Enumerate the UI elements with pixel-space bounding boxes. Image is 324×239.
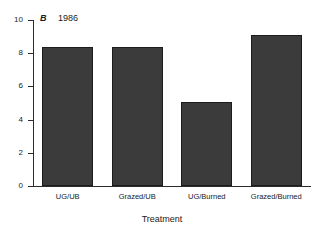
x-tick-label: UG/Burned xyxy=(172,192,242,202)
y-tick-mark xyxy=(28,53,33,54)
y-tick-mark xyxy=(28,186,33,187)
bar-chart-figure: B 1986 0246810 UG/UBGrazed/UBUG/BurnedGr… xyxy=(0,0,324,239)
y-tick-mark xyxy=(28,20,33,21)
y-tick-label: 10 xyxy=(14,14,23,25)
y-tick-mark xyxy=(28,153,33,154)
y-tick-label: 6 xyxy=(19,80,23,91)
y-tick-label: 0 xyxy=(19,180,23,191)
bar xyxy=(181,102,232,186)
y-tick-mark xyxy=(28,86,33,87)
y-tick-mark xyxy=(28,120,33,121)
x-axis-title: Treatment xyxy=(0,214,324,224)
bar xyxy=(251,35,302,186)
x-tick-label: UG/UB xyxy=(33,192,103,202)
bar xyxy=(42,47,93,186)
bar xyxy=(112,47,163,186)
x-tick-label: Grazed/Burned xyxy=(242,192,312,202)
x-tick-label: Grazed/UB xyxy=(103,192,173,202)
y-tick-label: 2 xyxy=(19,147,23,158)
y-tick-label: 4 xyxy=(19,114,23,125)
x-axis-line xyxy=(33,186,311,187)
plot-area: 0246810 xyxy=(33,20,311,186)
y-tick-label: 8 xyxy=(19,47,23,58)
